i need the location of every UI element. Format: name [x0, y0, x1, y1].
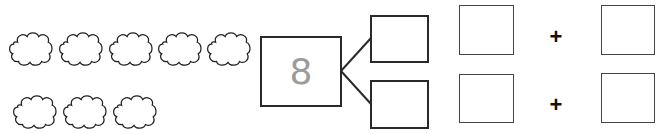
cloud-icon [157, 30, 203, 68]
cloud-icon [12, 93, 58, 131]
cloud-icon [108, 30, 154, 68]
cloud-icon [62, 93, 108, 131]
part-box-bottom[interactable] [370, 80, 429, 129]
equation-2-addend-2-box[interactable] [601, 73, 655, 123]
cloud-icon [112, 93, 158, 131]
equation-1-addend-2-box[interactable] [601, 5, 655, 55]
part-box-top[interactable] [370, 15, 429, 63]
cloud-icon [206, 30, 252, 68]
equation-2-addend-1-box[interactable] [459, 74, 514, 123]
cloud-icon [58, 30, 104, 68]
plus-sign: + [546, 27, 566, 47]
plus-sign: + [546, 95, 566, 115]
whole-number: 8 [262, 38, 340, 105]
equation-1-addend-1-box[interactable] [459, 5, 514, 55]
whole-box: 8 [260, 36, 342, 107]
cloud-icon [8, 30, 54, 68]
